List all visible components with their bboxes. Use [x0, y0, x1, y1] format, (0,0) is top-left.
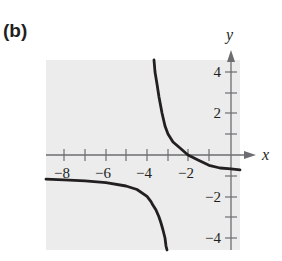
x-axis-label: x	[261, 146, 269, 163]
x-tick-label: −6	[95, 165, 111, 181]
x-tick-label: −4	[136, 165, 152, 181]
graph: −8 −6 −4 −2 4 2 −2 −4 x y	[0, 0, 282, 261]
y-axis-label: y	[224, 26, 234, 44]
y-tick-label: −4	[205, 230, 221, 246]
y-tick-label: 4	[214, 64, 222, 80]
x-axis-arrow-icon	[244, 151, 256, 159]
y-tick-label: 2	[214, 105, 222, 121]
y-axis-arrow-icon	[227, 50, 235, 62]
x-tick-label: −2	[178, 165, 194, 181]
y-tick-label: −2	[205, 189, 221, 205]
